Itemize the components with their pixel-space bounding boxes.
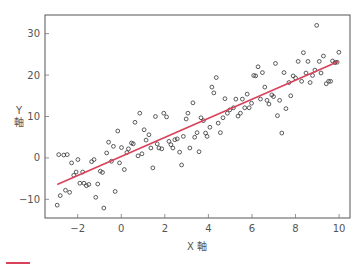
y-axis-label-line1: Y bbox=[15, 105, 23, 116]
plot-frame bbox=[45, 15, 350, 218]
data-point bbox=[133, 120, 137, 124]
data-point bbox=[116, 129, 120, 133]
data-point bbox=[243, 106, 247, 110]
data-point bbox=[178, 150, 182, 154]
data-point bbox=[210, 85, 214, 89]
data-point bbox=[245, 92, 249, 96]
data-point bbox=[162, 111, 166, 115]
x-tick-label: 0 bbox=[118, 223, 124, 234]
data-point bbox=[311, 74, 315, 78]
data-point bbox=[337, 50, 341, 54]
data-point bbox=[239, 111, 243, 115]
y-tick-label: 0 bbox=[34, 152, 40, 163]
x-axis-label: X 軸 bbox=[187, 240, 207, 252]
data-point bbox=[122, 168, 126, 172]
data-point bbox=[261, 71, 265, 75]
data-point bbox=[274, 62, 278, 66]
scatter-points bbox=[55, 23, 340, 210]
data-point bbox=[102, 206, 106, 210]
data-point bbox=[180, 163, 184, 167]
data-point bbox=[218, 131, 222, 135]
data-point bbox=[197, 150, 201, 154]
y-tick-label: 10 bbox=[27, 111, 40, 122]
data-point bbox=[214, 76, 218, 80]
x-tick-label: 6 bbox=[249, 223, 255, 234]
data-point bbox=[195, 131, 199, 135]
data-point bbox=[193, 135, 197, 139]
data-point bbox=[175, 137, 179, 141]
data-point bbox=[276, 114, 280, 118]
y-tick-label: 30 bbox=[27, 28, 40, 39]
data-point bbox=[216, 121, 220, 125]
data-point bbox=[306, 60, 310, 64]
data-point bbox=[315, 23, 319, 27]
regression-line bbox=[57, 61, 338, 184]
data-point bbox=[76, 158, 80, 162]
data-point bbox=[68, 190, 72, 194]
data-point bbox=[105, 151, 109, 155]
data-point bbox=[70, 161, 74, 165]
data-point bbox=[223, 97, 227, 101]
data-point bbox=[280, 131, 284, 135]
data-point bbox=[142, 128, 146, 132]
data-point bbox=[136, 154, 140, 158]
data-point bbox=[165, 115, 169, 119]
data-point bbox=[154, 115, 158, 119]
data-point bbox=[247, 106, 251, 110]
data-point bbox=[64, 188, 68, 192]
data-point bbox=[184, 117, 188, 121]
data-point bbox=[265, 98, 269, 102]
data-point bbox=[107, 140, 111, 144]
y-tick-label: −10 bbox=[19, 194, 40, 205]
data-point bbox=[300, 79, 304, 83]
data-point bbox=[308, 81, 312, 85]
data-point bbox=[188, 146, 192, 150]
data-point bbox=[221, 116, 225, 120]
data-point bbox=[55, 203, 59, 207]
data-point bbox=[319, 71, 323, 75]
data-point bbox=[78, 181, 82, 185]
x-tick-label: 4 bbox=[205, 223, 211, 234]
x-tick-label: 8 bbox=[292, 223, 298, 234]
data-point bbox=[171, 146, 175, 150]
data-point bbox=[263, 85, 267, 89]
data-point bbox=[96, 182, 100, 186]
data-point bbox=[147, 133, 151, 137]
data-point bbox=[191, 101, 195, 105]
data-point bbox=[259, 97, 263, 101]
data-point bbox=[234, 97, 238, 101]
data-point bbox=[322, 54, 326, 58]
data-point bbox=[289, 94, 293, 98]
data-point bbox=[140, 152, 144, 156]
scatter-chart: −100102030 −20246810 X 軸 Y 軸 bbox=[0, 0, 362, 264]
data-point bbox=[57, 153, 61, 157]
data-point bbox=[296, 60, 300, 64]
x-axis: −20246810 bbox=[70, 214, 345, 234]
data-point bbox=[282, 71, 286, 75]
data-point bbox=[127, 147, 131, 151]
x-tick-label: 10 bbox=[333, 223, 346, 234]
data-point bbox=[278, 98, 282, 102]
x-tick-label: 2 bbox=[162, 223, 168, 234]
data-point bbox=[149, 146, 153, 150]
data-point bbox=[250, 101, 254, 105]
data-point bbox=[208, 125, 212, 129]
data-point bbox=[151, 166, 155, 170]
data-point bbox=[74, 170, 78, 174]
data-point bbox=[120, 146, 124, 150]
data-point bbox=[186, 111, 190, 115]
data-point bbox=[291, 74, 295, 78]
data-point bbox=[112, 144, 116, 148]
data-point bbox=[240, 97, 244, 101]
data-point bbox=[155, 142, 159, 146]
data-point bbox=[181, 134, 185, 138]
data-point bbox=[317, 60, 321, 64]
data-point bbox=[301, 51, 305, 55]
x-tick-label: −2 bbox=[70, 223, 85, 234]
data-point bbox=[284, 107, 288, 111]
data-point bbox=[144, 138, 148, 142]
data-point bbox=[212, 91, 216, 95]
data-point bbox=[205, 134, 209, 138]
data-point bbox=[138, 111, 142, 115]
data-point bbox=[92, 158, 96, 162]
